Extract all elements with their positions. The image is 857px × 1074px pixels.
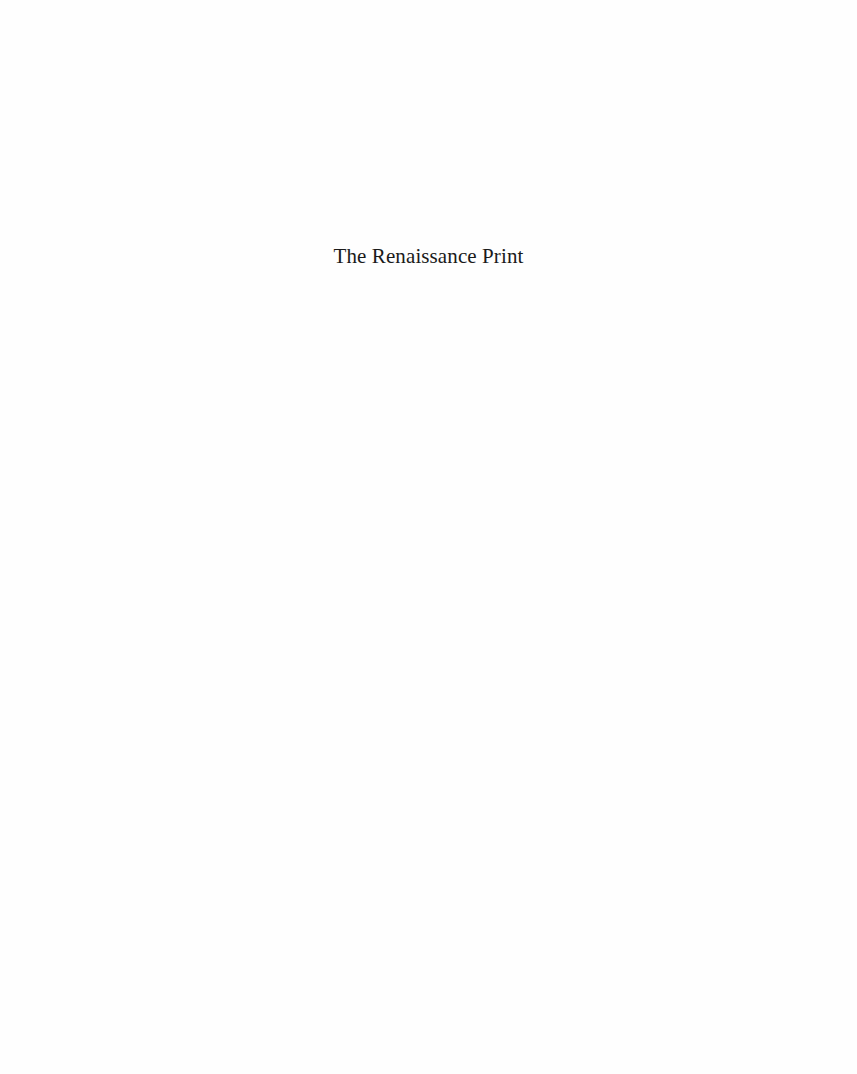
document-page: The Renaissance Print xyxy=(0,0,857,1074)
half-title: The Renaissance Print xyxy=(0,244,857,269)
